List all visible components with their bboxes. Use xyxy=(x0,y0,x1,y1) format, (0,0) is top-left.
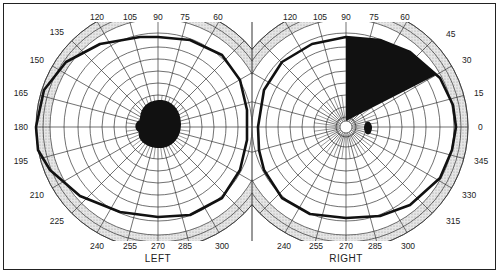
blind-spot xyxy=(364,122,372,135)
angle-label: 285 xyxy=(368,241,382,251)
left-eye-chart xyxy=(36,5,280,249)
angle-label: 255 xyxy=(309,241,323,251)
angle-label: 225 xyxy=(50,216,64,226)
angle-label: 300 xyxy=(401,241,415,251)
angle-label: 105 xyxy=(313,12,327,22)
angle-label: 240 xyxy=(90,241,104,251)
angle-label: 345 xyxy=(474,156,488,166)
angle-label: 165 xyxy=(14,88,28,98)
angle-label: 240 xyxy=(277,241,291,251)
angle-label: 330 xyxy=(462,190,476,200)
angle-label: 60 xyxy=(400,12,410,22)
angle-label: 75 xyxy=(180,12,190,22)
right-eye-chart xyxy=(224,5,468,249)
angle-label: 195 xyxy=(14,156,28,166)
angle-label: 150 xyxy=(30,55,44,65)
angle-label: 45 xyxy=(446,29,456,39)
visual-field-diagram: 1201059075601351501651801952102252402552… xyxy=(0,0,501,276)
angle-label: 270 xyxy=(339,241,353,251)
angle-label: 30 xyxy=(462,55,472,65)
angle-label: 270 xyxy=(151,241,165,251)
angle-label: 120 xyxy=(90,12,104,22)
angle-label: 255 xyxy=(123,241,137,251)
angle-label: 105 xyxy=(123,12,137,22)
right-eye-label: RIGHT xyxy=(329,253,363,264)
angle-label: 60 xyxy=(213,12,223,22)
angle-label: 180 xyxy=(14,122,28,132)
angle-label: 15 xyxy=(474,88,484,98)
angle-label: 300 xyxy=(215,241,229,251)
angle-label: 315 xyxy=(446,216,460,226)
angle-label: 135 xyxy=(50,27,64,37)
angle-label: 90 xyxy=(153,12,163,22)
angle-label: 120 xyxy=(283,12,297,22)
angle-label: 285 xyxy=(178,241,192,251)
fixation-point xyxy=(340,121,352,133)
angle-label: 90 xyxy=(341,12,351,22)
angle-label: 75 xyxy=(369,12,379,22)
angle-label: 0 xyxy=(478,122,483,132)
left-eye-label: LEFT xyxy=(145,253,171,264)
angle-label: 210 xyxy=(30,190,44,200)
